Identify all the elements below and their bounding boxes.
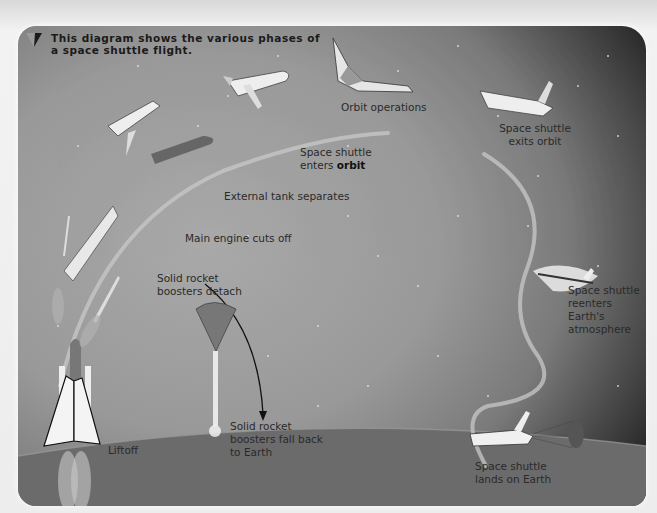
label-line: Space shuttle bbox=[490, 122, 580, 135]
label-line: Space shuttle bbox=[300, 146, 372, 159]
earth-surface bbox=[18, 428, 646, 506]
label-line: to Earth bbox=[230, 446, 323, 459]
label-tank-separates: External tank separates bbox=[224, 190, 349, 203]
label-line: Solid rocket bbox=[157, 272, 242, 285]
label-bold-term: orbit bbox=[337, 159, 366, 171]
label-line: boosters detach bbox=[157, 285, 242, 298]
label-line: exits orbit bbox=[490, 135, 580, 148]
tank-separation bbox=[108, 101, 213, 164]
descent-trajectory bbox=[472, 154, 544, 466]
label-liftoff: Liftoff bbox=[108, 444, 138, 457]
label-line: boosters fall back bbox=[230, 433, 323, 446]
label-lands: Space shuttle lands on Earth bbox=[475, 460, 551, 486]
booster-separation-shuttle bbox=[52, 206, 120, 350]
label-main-engine-cutoff: Main engine cuts off bbox=[185, 232, 292, 245]
label-boosters-detach: Solid rocket boosters detach bbox=[157, 272, 242, 298]
label-boosters-fall: Solid rocket boosters fall back to Earth bbox=[230, 420, 323, 459]
label-text: enters bbox=[300, 159, 337, 171]
label-line: lands on Earth bbox=[475, 473, 551, 486]
label-orbit-operations: Orbit operations bbox=[341, 101, 427, 114]
triangle-bullet-icon bbox=[26, 33, 42, 47]
label-line: Solid rocket bbox=[230, 420, 323, 433]
label-line: Earth's bbox=[568, 310, 640, 323]
diagram-artwork bbox=[18, 26, 646, 506]
label-line: reenters bbox=[568, 297, 640, 310]
label-line: enters orbit bbox=[300, 159, 372, 172]
diagram-panel bbox=[18, 26, 646, 506]
label-line: Space shuttle bbox=[475, 460, 551, 473]
label-reenters: Space shuttle reenters Earth's atmospher… bbox=[568, 284, 640, 336]
booster-parachute bbox=[196, 303, 236, 438]
ascending-shuttle bbox=[223, 71, 289, 109]
exits-orbit-shuttle bbox=[480, 81, 553, 116]
label-line: Space shuttle bbox=[568, 284, 640, 297]
diagram-caption: This diagram shows the various phases of… bbox=[51, 32, 331, 56]
orbit-operations-shuttle bbox=[333, 38, 413, 92]
label-enters-orbit: Space shuttle enters orbit bbox=[300, 146, 372, 172]
label-line: atmosphere bbox=[568, 323, 640, 336]
label-exits-orbit: Space shuttle exits orbit bbox=[490, 122, 580, 148]
